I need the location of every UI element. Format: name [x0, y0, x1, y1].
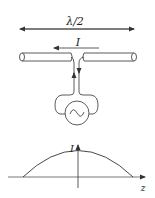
- length-dimension: λ/2: [20, 15, 134, 29]
- plot-y-label: I: [69, 143, 75, 154]
- antenna-rods: [20, 53, 137, 61]
- ac-source: [55, 88, 98, 125]
- dipole-diagram: λ/2 I I z: [0, 0, 155, 198]
- right-rod: [83, 53, 137, 61]
- length-label: λ/2: [65, 15, 84, 28]
- feed-lines: [71, 57, 84, 88]
- sine-wave-icon: [70, 110, 84, 117]
- current-label: I: [75, 36, 81, 49]
- plot-x-label: z: [140, 183, 146, 193]
- left-rod: [20, 53, 73, 61]
- current-indicator: I: [54, 36, 99, 49]
- current-distribution-plot: I z: [8, 143, 146, 193]
